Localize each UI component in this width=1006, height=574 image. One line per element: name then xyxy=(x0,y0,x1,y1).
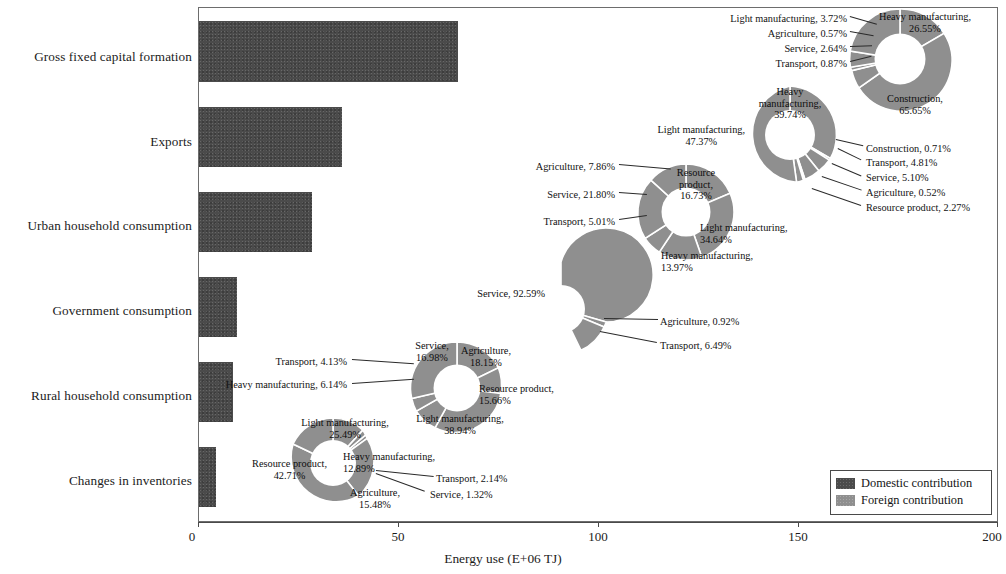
donut-2-label-resource-product: Resource product, 15.66% xyxy=(479,383,554,406)
donut-4-label-service: Service, 21.80% xyxy=(547,189,615,201)
donut-6-label-construction: Construction, 65.65% xyxy=(887,93,943,116)
category-label-urban-household-consumption: Urban household consumption xyxy=(27,218,192,234)
bar-government-consumption xyxy=(199,277,237,337)
donut-5-label-light-manufacturing: Light manufacturing, 47.37% xyxy=(658,124,746,147)
legend-swatch-domestic-icon xyxy=(836,478,855,489)
bar-gross-fixed-capital-formation xyxy=(199,21,458,82)
category-label-rural-household-consumption: Rural household consumption xyxy=(31,388,192,404)
donut-4-label-heavy-manufacturing: Heavy manufacturing, 13.97% xyxy=(661,250,753,273)
donut-3-label-service: Service, 92.59% xyxy=(477,288,545,300)
donut-1-label-service: Service, 1.32% xyxy=(430,489,493,501)
x-tick-200 xyxy=(997,522,998,527)
x-tick-0 xyxy=(198,522,199,527)
donut-5-label-heavy-manufacturing: Heavy manufacturing, 39.74% xyxy=(759,86,822,121)
x-tick-150 xyxy=(798,522,799,527)
donut-2-label-agriculture: Agriculture, 18.15% xyxy=(461,345,511,368)
donut-4-label-transport: Transport, 5.01% xyxy=(544,216,615,228)
government-consumption-donut xyxy=(513,261,609,357)
legend-label-foreign: Foreign contribution xyxy=(861,493,963,508)
x-tick-label-150: 150 xyxy=(788,529,808,545)
donut-6-label-light-manufacturing: Light manufacturing, 3.72% xyxy=(730,13,847,25)
donut-2-label-service: Service, 16.98% xyxy=(415,340,448,363)
category-label-changes-in-inventories: Changes in inventories xyxy=(69,473,192,489)
donut-5-label-transport: Transport, 4.81% xyxy=(866,157,937,169)
bar-changes-in-inventories xyxy=(199,447,216,507)
bar-exports xyxy=(199,107,342,167)
donut-1-label-agriculture: Agriculture, 15.48% xyxy=(350,487,400,510)
donut-2-label-transport: Transport, 4.13% xyxy=(276,356,347,368)
donut-4-label-agriculture: Agriculture, 7.86% xyxy=(536,161,615,173)
donut-6-label-heavy-manufacturing: Heavy manufacturing, 26.55% xyxy=(879,11,971,34)
donut-5-label-agriculture: Agriculture, 0.52% xyxy=(866,187,945,199)
category-label-exports: Exports xyxy=(150,134,192,150)
donut-3-label-agriculture: Agriculture, 0.92% xyxy=(660,316,739,328)
legend-item-foreign: Foreign contribution xyxy=(836,492,986,509)
donut-2-label-heavy-manufacturing: Heavy manufacturing, 6.14% xyxy=(226,379,347,391)
donut-1-label-resource-product: Resource product, 42.71% xyxy=(252,458,327,481)
chart-root: Gross fixed capital formation Exports Ur… xyxy=(0,0,1006,574)
legend: Domestic contribution Foreign contributi… xyxy=(830,470,992,515)
category-label-gross-fixed-capital-formation: Gross fixed capital formation xyxy=(34,49,192,65)
donut-6-hole xyxy=(875,34,926,85)
donut-3-label-transport: Transport, 6.49% xyxy=(660,340,731,352)
donut-6-label-transport: Transport, 0.87% xyxy=(776,58,847,70)
x-tick-label-100: 100 xyxy=(588,529,608,545)
x-tick-label-0: 0 xyxy=(189,529,196,545)
donut-2-hole xyxy=(434,365,481,412)
x-axis-title: Energy use (E+06 TJ) xyxy=(0,551,1006,567)
donut-1-label-transport: Transport, 2.14% xyxy=(436,473,507,485)
bar-rural-household-consumption xyxy=(199,362,233,422)
legend-swatch-foreign-icon xyxy=(836,495,855,506)
donut-5-label-construction: Construction, 0.71% xyxy=(866,143,951,155)
x-tick-label-200: 200 xyxy=(982,529,1002,545)
donut-6-label-service: Service, 2.64% xyxy=(784,43,847,55)
x-tick-50 xyxy=(398,522,399,527)
donut-1-label-light-manufacturing: Light manufacturing, 25.49% xyxy=(301,417,389,440)
donut-4-label-resource-product: Resource product, 16.73% xyxy=(677,167,715,202)
x-tick-label-50: 50 xyxy=(392,529,405,545)
x-tick-100 xyxy=(598,522,599,527)
donut-6-label-agriculture: Agriculture, 0.57% xyxy=(768,28,847,40)
donut-5-label-service: Service, 5.10% xyxy=(866,172,929,184)
bar-urban-household-consumption xyxy=(199,192,312,252)
donut-5-label-resource-product: Resource product, 2.27% xyxy=(866,202,970,214)
legend-label-domestic: Domestic contribution xyxy=(861,476,972,491)
category-axis: Gross fixed capital formation Exports Ur… xyxy=(0,0,192,515)
legend-item-domestic: Domestic contribution xyxy=(836,475,986,492)
donut-2-label-light-manufacturing: Light manufacturing, 38.94% xyxy=(416,413,504,436)
category-label-government-consumption: Government consumption xyxy=(52,303,192,319)
donut-4-label-light-manufacturing: Light manufacturing, 34.64% xyxy=(700,222,788,245)
